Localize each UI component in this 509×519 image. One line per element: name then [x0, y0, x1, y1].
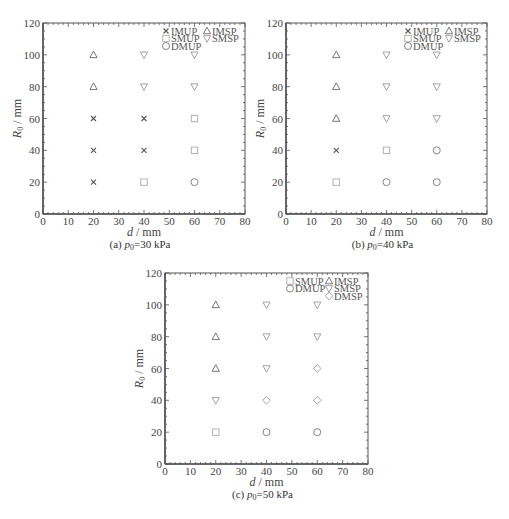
marker-smsp: [263, 334, 270, 341]
legend-dmup-icon: [163, 43, 170, 50]
marker-smsp: [140, 52, 147, 59]
x-tick-label: 50: [164, 215, 176, 227]
x-tick-label: 50: [406, 215, 418, 227]
marker-smup: [141, 179, 147, 185]
y-tick-label: 40: [29, 144, 41, 156]
x-tick-label: 10: [306, 215, 318, 227]
y-tick-label: 80: [29, 81, 41, 93]
x-tick-label: 70: [337, 465, 349, 477]
y-tick-label: 120: [146, 267, 163, 279]
marker-imup: [142, 148, 147, 153]
marker-smup: [191, 115, 197, 121]
y-tick-label: 40: [272, 144, 284, 156]
marker-smsp: [314, 334, 321, 341]
x-tick-label: 80: [240, 215, 252, 227]
marker-dmup: [433, 147, 440, 154]
marker-imsp: [90, 51, 97, 58]
legend-imsp-icon: [445, 27, 452, 34]
x-tick-label: 0: [40, 215, 46, 227]
marker-imsp: [333, 115, 340, 122]
chart-caption: (c) p0=50 kPa: [232, 488, 293, 502]
marker-smsp: [140, 84, 147, 91]
marker-smsp: [433, 84, 440, 91]
marker-dmup: [314, 429, 321, 436]
marker-smsp: [383, 84, 390, 91]
legend-item-dmup: DMUP: [171, 41, 202, 52]
marker-dmup: [433, 179, 440, 186]
y-axis-label: R0 / mm: [253, 98, 268, 139]
x-tick-label: 0: [283, 215, 289, 227]
x-tick-label: 20: [88, 215, 100, 227]
marker-imsp: [333, 51, 340, 58]
y-tick-label: 40: [151, 394, 163, 406]
marker-imsp: [333, 83, 340, 90]
marker-smsp: [263, 366, 270, 373]
y-axis-label: R0 / mm: [10, 98, 25, 139]
chart-b: 01020304050607080020406080100120d / mmR0…: [253, 17, 493, 252]
x-tick-label: 50: [286, 465, 298, 477]
legend-item-dmsp: DMSP: [334, 291, 363, 302]
marker-imsp: [212, 333, 219, 340]
y-tick-label: 60: [272, 113, 284, 125]
y-tick-label: 80: [272, 81, 284, 93]
y-tick-label: 20: [151, 426, 163, 438]
y-tick-label: 20: [29, 176, 41, 188]
marker-smup: [213, 429, 219, 435]
legend-smsp-icon: [325, 286, 332, 293]
chart-a: 01020304050607080020406080100120d / mmR0…: [10, 17, 251, 252]
marker-smsp: [383, 52, 390, 59]
marker-dmup: [263, 429, 270, 436]
marker-imsp: [212, 365, 219, 372]
x-axis-label: d / mm: [127, 225, 162, 239]
x-axis-label: d / mm: [249, 475, 284, 489]
marker-smsp: [212, 398, 219, 405]
x-tick-label: 10: [185, 465, 197, 477]
y-tick-label: 20: [272, 176, 284, 188]
y-tick-label: 0: [278, 208, 284, 220]
x-tick-label: 60: [431, 215, 443, 227]
marker-smup: [333, 179, 339, 185]
legend-imup-icon: [406, 29, 411, 34]
legend-smup-icon: [287, 278, 293, 284]
marker-smsp: [263, 302, 270, 309]
x-tick-label: 0: [162, 465, 168, 477]
marker-smup: [191, 147, 197, 153]
y-tick-label: 100: [146, 299, 163, 311]
legend-item-dmup: DMUP: [413, 41, 444, 52]
y-tick-label: 100: [267, 49, 284, 61]
legend-item-dmup: DMUP: [295, 283, 326, 294]
legend-smsp-icon: [445, 36, 452, 43]
marker-dmup: [383, 179, 390, 186]
x-tick-label: 60: [189, 215, 201, 227]
marker-imsp: [212, 301, 219, 308]
legend-item-smsp: SMSP: [454, 33, 481, 44]
x-tick-label: 20: [210, 465, 222, 477]
legend-smsp-icon: [203, 36, 210, 43]
legend-dmup-icon: [287, 285, 294, 292]
marker-smsp: [314, 302, 321, 309]
marker-smsp: [191, 52, 198, 59]
x-tick-label: 10: [63, 215, 75, 227]
x-tick-label: 20: [331, 215, 343, 227]
x-tick-label: 60: [312, 465, 324, 477]
figure-canvas: 01020304050607080020406080100120d / mmR0…: [0, 0, 509, 519]
marker-imup: [91, 180, 96, 185]
marker-dmsp: [313, 397, 321, 405]
marker-smsp: [191, 84, 198, 91]
chart-caption: (b) p0=40 kPa: [352, 238, 414, 252]
chart-caption: (a) p0=30 kPa: [110, 238, 171, 252]
y-tick-label: 0: [35, 208, 41, 220]
y-axis-label: R0 / mm: [132, 348, 147, 389]
marker-imup: [334, 148, 339, 153]
x-tick-label: 30: [236, 465, 248, 477]
y-tick-label: 100: [24, 49, 41, 61]
y-tick-label: 80: [151, 331, 163, 343]
marker-smup: [383, 147, 389, 153]
marker-imup: [91, 148, 96, 153]
legend-dmup-icon: [405, 43, 412, 50]
marker-imup: [142, 116, 147, 121]
x-tick-label: 70: [456, 215, 468, 227]
y-tick-label: 60: [29, 113, 41, 125]
legend-imup-icon: [164, 29, 169, 34]
legend-smup-icon: [405, 35, 411, 41]
